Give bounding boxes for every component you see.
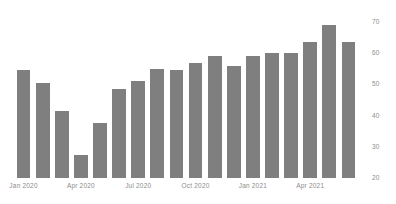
bar-slot: [112, 0, 126, 178]
bar[interactable]: [131, 81, 145, 178]
bar-slot: [150, 0, 164, 178]
bar-slot: [36, 0, 50, 178]
bar[interactable]: [36, 83, 50, 178]
bar-slot: [227, 0, 241, 178]
bar-slot: [189, 0, 203, 178]
x-tick-label: Jan 2021: [239, 183, 267, 190]
x-tick-label: Jul 2020: [125, 183, 151, 190]
bar[interactable]: [150, 69, 164, 178]
bar[interactable]: [55, 111, 69, 178]
bar[interactable]: [284, 53, 298, 178]
bar[interactable]: [93, 123, 107, 178]
x-tick-label: Apr 2020: [67, 183, 95, 190]
bar-slot: [17, 0, 31, 178]
y-tick-label: 40: [372, 112, 380, 119]
bar[interactable]: [189, 63, 203, 178]
bar[interactable]: [74, 155, 88, 178]
bar[interactable]: [342, 42, 356, 178]
bar-slot: [74, 0, 88, 178]
bar[interactable]: [246, 56, 260, 178]
bar-slot: [131, 0, 145, 178]
y-tick-label: 50: [372, 81, 380, 88]
bar[interactable]: [322, 25, 336, 178]
bar-slot: [284, 0, 298, 178]
bar-slot: [246, 0, 260, 178]
bar[interactable]: [112, 89, 126, 178]
bar[interactable]: [227, 66, 241, 178]
bar[interactable]: [208, 56, 222, 178]
bar-slot: [342, 0, 356, 178]
y-tick-label: 60: [372, 50, 380, 57]
x-tick-label: Apr 2021: [296, 183, 324, 190]
bar-slot: [303, 0, 317, 178]
bar-slot: [55, 0, 69, 178]
y-tick-label: 70: [372, 19, 380, 26]
bar[interactable]: [265, 53, 279, 178]
y-axis: 203040506070: [362, 0, 396, 204]
bar-slot: [322, 0, 336, 178]
bar-chart: 203040506070 Jan 2020Apr 2020Jul 2020Oct…: [0, 0, 396, 204]
bar-slot: [265, 0, 279, 178]
y-tick-label: 30: [372, 144, 380, 151]
bar-slot: [170, 0, 184, 178]
bar[interactable]: [170, 70, 184, 178]
bar[interactable]: [17, 70, 31, 178]
bar-slot: [208, 0, 222, 178]
bar[interactable]: [303, 42, 317, 178]
x-tick-label: Oct 2020: [182, 183, 210, 190]
x-axis: Jan 2020Apr 2020Jul 2020Oct 2020Jan 2021…: [14, 178, 358, 204]
bar-slot: [93, 0, 107, 178]
x-tick-label: Jan 2020: [9, 183, 37, 190]
plot-area: [14, 0, 358, 178]
y-tick-label: 20: [372, 175, 380, 182]
